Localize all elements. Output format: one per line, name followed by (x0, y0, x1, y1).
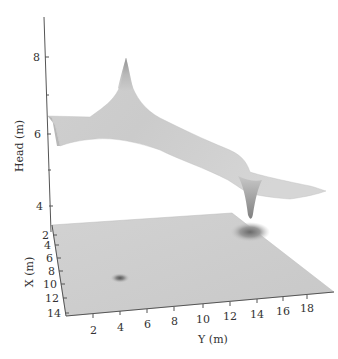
y-tick-label: 6 (144, 318, 151, 331)
x-tick-label: 12 (45, 292, 59, 305)
z-axis: 8 6 4 Head (m) (13, 17, 53, 232)
z-axis-label: Head (m) (13, 120, 26, 172)
x-tick-label: 14 (47, 307, 61, 320)
z-tick-label: 4 (36, 200, 43, 213)
y-tick-label: 10 (196, 313, 210, 326)
y-tick-label: 4 (117, 321, 124, 334)
y-axis-label: Y (m) (197, 333, 228, 346)
y-tick-label: 14 (250, 308, 264, 321)
floor-spot-pumping (230, 222, 270, 242)
x-tick-label: 10 (43, 278, 57, 291)
head-surface (48, 58, 326, 219)
y-tick-label: 8 (171, 315, 178, 328)
y-tick-label: 18 (300, 302, 314, 315)
surface-plot: 8 6 4 Head (m) 2 4 6 8 10 12 14 X (m) 2 (0, 0, 338, 359)
y-tick-label: 2 (90, 324, 97, 337)
x-tick-label: 8 (48, 265, 55, 278)
floor-spot-injection (110, 273, 130, 283)
x-tick-label: 6 (46, 252, 53, 265)
z-tick-label: 8 (33, 51, 40, 64)
x-axis-label: X (m) (23, 257, 36, 287)
z-tick-label: 6 (34, 128, 41, 141)
floor-plane (52, 213, 334, 316)
y-tick-label: 16 (276, 305, 290, 318)
y-tick-label: 12 (223, 310, 237, 323)
x-tick-label: 4 (44, 239, 51, 252)
